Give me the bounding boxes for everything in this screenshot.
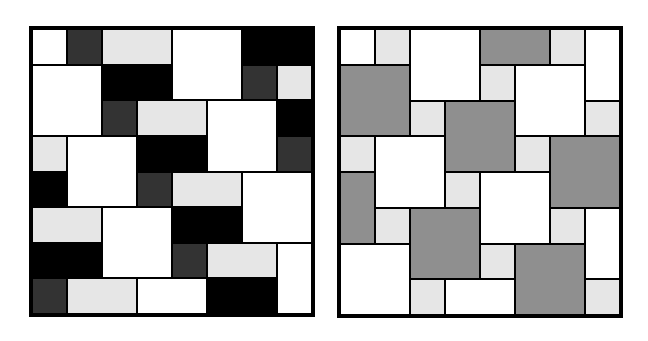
tile-gray	[444, 100, 516, 174]
tile-gray	[339, 64, 411, 138]
tile-dark-gray	[276, 135, 313, 173]
tile-gray	[409, 207, 481, 281]
right-tiling-pattern	[337, 26, 623, 318]
tile-light-gray	[479, 243, 516, 281]
tile-light-gray	[374, 207, 411, 245]
tile-white	[584, 28, 621, 102]
tile-light-gray	[584, 278, 621, 316]
tile-dark-gray	[101, 99, 138, 137]
tile-dark-gray	[66, 28, 103, 66]
tile-light-gray	[514, 135, 551, 173]
tile-white	[374, 135, 446, 209]
tile-white	[241, 171, 313, 244]
tile-light-gray	[31, 135, 68, 173]
tile-black	[276, 99, 313, 137]
tile-white	[31, 64, 103, 137]
tile-black	[31, 171, 68, 209]
tile-white	[101, 206, 173, 279]
tile-light-gray	[136, 99, 208, 137]
tile-light-gray	[276, 64, 313, 102]
tile-white	[339, 243, 411, 317]
tile-white	[339, 28, 376, 66]
tile-light-gray	[171, 171, 243, 209]
tile-white	[409, 28, 481, 102]
tile-gray	[514, 243, 586, 317]
tile-white	[584, 207, 621, 281]
tile-black	[206, 277, 278, 315]
tile-dark-gray	[171, 242, 208, 280]
tile-black	[136, 135, 208, 173]
tile-dark-gray	[136, 171, 173, 209]
left-tiling-pattern	[29, 26, 315, 317]
tile-gray	[339, 171, 376, 245]
tile-black	[241, 28, 313, 66]
tile-white	[479, 171, 551, 245]
tile-white	[66, 135, 138, 208]
tile-light-gray	[206, 242, 278, 280]
tile-white	[206, 99, 278, 172]
tile-dark-gray	[31, 277, 68, 315]
tile-light-gray	[31, 206, 103, 244]
tile-white	[444, 278, 516, 316]
tile-light-gray	[101, 28, 173, 66]
tile-black	[31, 242, 103, 280]
tile-white	[31, 28, 68, 66]
tile-light-gray	[409, 278, 446, 316]
tile-dark-gray	[241, 64, 278, 102]
tile-light-gray	[444, 171, 481, 209]
tile-light-gray	[409, 100, 446, 138]
tile-black	[101, 64, 173, 102]
tile-light-gray	[549, 28, 586, 66]
tile-white	[171, 28, 243, 101]
tile-gray	[479, 28, 551, 66]
tile-black	[171, 206, 243, 244]
tile-light-gray	[66, 277, 138, 315]
tile-light-gray	[374, 28, 411, 66]
tile-white	[136, 277, 208, 315]
tile-white	[276, 242, 313, 315]
tile-light-gray	[549, 207, 586, 245]
tile-gray	[549, 135, 621, 209]
tile-light-gray	[479, 64, 516, 102]
tile-white	[514, 64, 586, 138]
tile-light-gray	[339, 135, 376, 173]
tile-light-gray	[584, 100, 621, 138]
